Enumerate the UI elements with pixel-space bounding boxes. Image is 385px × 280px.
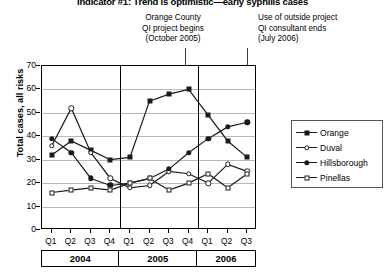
data-point-pinellas-1 <box>69 188 74 193</box>
data-point-orange-7 <box>186 87 191 92</box>
y-tick-mark <box>36 88 40 89</box>
annotation-qi-project-begins: Orange County QI project begins (October… <box>113 13 233 45</box>
y-tick-label-20: 20 <box>10 178 36 186</box>
data-point-pinellas-7 <box>186 181 191 186</box>
legend-item-orange[interactable]: Orange <box>296 125 379 140</box>
legend-marker-icon-open-circle <box>296 142 317 153</box>
annotation-line: QI consultant ends <box>258 24 384 35</box>
y-tick-label-40: 40 <box>10 131 36 139</box>
data-point-orange-4 <box>127 155 132 160</box>
data-point-pinellas-10 <box>245 171 250 176</box>
y-tick-mark <box>36 112 40 113</box>
x-tick-label-10: Q3 <box>234 236 258 246</box>
legend-label: Orange <box>317 128 349 138</box>
data-point-pinellas-3 <box>108 188 113 193</box>
data-point-pinellas-9 <box>225 185 230 190</box>
legend-marker-icon-filled-circle <box>296 157 317 168</box>
annotation-line: QI project begins <box>113 24 233 35</box>
data-point-orange-3 <box>108 157 113 162</box>
plot-area <box>41 65 256 229</box>
y-tick-label-10: 10 <box>10 202 36 210</box>
chart-legend: OrangeDuvalHillsboroughPinellas <box>291 120 383 188</box>
y-tick-label-50: 50 <box>10 108 36 116</box>
data-point-orange-9 <box>225 138 230 143</box>
data-point-orange-8 <box>206 113 211 118</box>
y-tick-mark <box>36 229 40 230</box>
annotation-line: (October 2005) <box>113 34 233 45</box>
data-point-orange-0 <box>49 153 54 158</box>
annotation-line: Orange County <box>113 13 233 24</box>
y-tick-label-70: 70 <box>10 61 36 69</box>
data-point-pinellas-5 <box>147 176 152 181</box>
legend-item-pinellas[interactable]: Pinellas <box>296 170 379 185</box>
annotation-consultant-ends: Use of outside project QI consultant end… <box>258 13 384 45</box>
y-tick-label-60: 60 <box>10 84 36 92</box>
legend-label: Duval <box>317 143 342 153</box>
legend-marker-icon-filled-square <box>296 127 317 138</box>
legend-item-duval[interactable]: Duval <box>296 140 379 155</box>
data-point-pinellas-4 <box>127 181 132 186</box>
y-tick-mark <box>36 65 40 66</box>
y-tick-label-0: 0 <box>10 225 36 233</box>
chart-figure: Indicator #1: Trend is optimistic—early … <box>0 0 385 280</box>
y-tick-mark <box>36 182 40 183</box>
data-point-orange-1 <box>69 138 74 143</box>
legend-label: Hillsborough <box>317 158 368 168</box>
data-point-pinellas-6 <box>167 188 172 193</box>
data-point-orange-6 <box>167 92 172 97</box>
data-point-orange-10 <box>245 155 250 160</box>
year-label-2005: 2005 <box>119 251 196 266</box>
data-point-pinellas-8 <box>206 171 211 176</box>
y-tick-mark <box>36 206 40 207</box>
y-tick-mark <box>36 159 40 160</box>
y-tick-label-30: 30 <box>10 155 36 163</box>
page-title: Indicator #1: Trend is optimistic—early … <box>0 0 385 7</box>
series-lines <box>42 66 257 230</box>
annotation-line: (July 2006) <box>258 34 384 45</box>
year-axis-bar: 200420052006 <box>41 250 256 267</box>
data-point-orange-5 <box>147 99 152 104</box>
data-point-pinellas-0 <box>49 190 54 195</box>
data-point-pinellas-2 <box>88 185 93 190</box>
y-tick-mark <box>36 135 40 136</box>
year-label-2004: 2004 <box>42 251 119 266</box>
legend-marker-icon-open-square <box>296 172 317 183</box>
annotation-line: Use of outside project <box>258 13 384 24</box>
legend-item-hillsborough[interactable]: Hillsborough <box>296 155 379 170</box>
legend-label: Pinellas <box>317 173 350 183</box>
year-label-2006: 2006 <box>197 251 255 266</box>
